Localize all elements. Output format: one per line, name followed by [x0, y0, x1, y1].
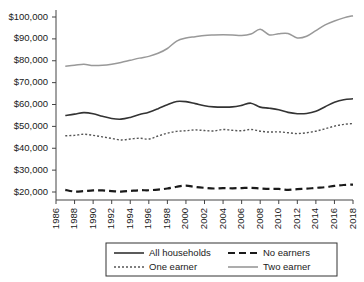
- legend-label-no-earners: No earners: [263, 247, 310, 258]
- x-tick-label: 1994: [124, 208, 135, 229]
- legend-label-one-earner: One earner: [149, 261, 197, 272]
- legend-label-two-earner: Two earner: [263, 261, 311, 272]
- y-axis: $100,000$90,000$80,000$70,000$60,000$50,…: [8, 10, 56, 200]
- series-lines: [65, 16, 353, 192]
- x-tick-label: 2014: [309, 208, 320, 229]
- y-tick-label: $70,000: [14, 76, 48, 87]
- x-tick-label: 2012: [291, 208, 302, 229]
- y-tick-label: $50,000: [14, 120, 48, 131]
- x-tick-label: 1996: [142, 208, 153, 229]
- x-tick-label: 2000: [179, 208, 190, 229]
- y-tick-label: $60,000: [14, 98, 48, 109]
- y-tick-label: $20,000: [14, 186, 48, 197]
- x-tick-label: 2004: [217, 208, 228, 229]
- x-tick-label: 1998: [161, 208, 172, 229]
- series-line-one-earner: [65, 124, 353, 140]
- y-tick-label: $30,000: [14, 164, 48, 175]
- x-tick-label: 2008: [254, 208, 265, 229]
- x-tick-label: 2016: [328, 208, 339, 229]
- series-line-no-earners: [65, 185, 353, 192]
- x-tick-label: 2002: [198, 208, 209, 229]
- y-tick-label: $80,000: [14, 54, 48, 65]
- y-tick-label: $100,000: [8, 11, 48, 22]
- x-tick-label: 1986: [50, 208, 61, 229]
- y-tick-label: $90,000: [14, 32, 48, 43]
- x-tick-label: 1988: [68, 208, 79, 229]
- x-axis: 1986198819901992199419961998200020022004…: [50, 200, 358, 229]
- chart-legend: All householdsNo earnersOne earnerTwo ea…: [106, 243, 337, 276]
- series-line-all-households: [65, 99, 353, 119]
- chart-canvas: $100,000$90,000$80,000$70,000$60,000$50,…: [0, 0, 364, 282]
- series-line-two-earner: [65, 16, 353, 67]
- x-tick-label: 2018: [347, 208, 358, 229]
- x-tick-label: 1990: [87, 208, 98, 229]
- x-tick-label: 2006: [235, 208, 246, 229]
- x-tick-label: 2010: [272, 208, 283, 229]
- legend-label-all-households: All households: [149, 247, 211, 258]
- x-tick-label: 1992: [105, 208, 116, 229]
- income-by-earner-line-chart: $100,000$90,000$80,000$70,000$60,000$50,…: [0, 0, 364, 282]
- y-tick-label: $40,000: [14, 142, 48, 153]
